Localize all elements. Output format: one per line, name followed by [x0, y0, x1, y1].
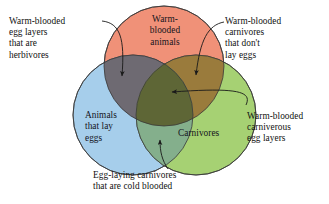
callout-egg-laying-carnivores-cold-blooded: Egg-laying carnivores that are cold bloo…: [93, 170, 243, 192]
callout-warm-blooded-egg-layers-herbivores: Warm-blooded egg layers that are herbivo…: [9, 16, 107, 61]
callout-warm-blooded-carniverous-egg-layers: Warm-blooded carniverous egg layers: [247, 111, 329, 145]
venn-diagram-figure: Warm- blooded animals Animals that lay e…: [0, 0, 329, 204]
set-label-warm-blooded-animals: Warm- blooded animals: [134, 14, 196, 48]
set-label-animals-that-lay-eggs: Animals that lay eggs: [85, 110, 147, 144]
set-label-carnivores: Carnivores: [178, 128, 248, 139]
callout-warm-blooded-carnivores-no-eggs: Warm-blooded carnivores that don't lay e…: [225, 16, 325, 61]
